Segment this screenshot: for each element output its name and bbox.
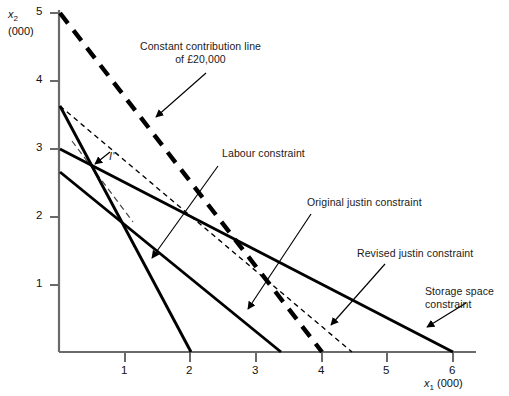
y-tick-1: 1 (36, 277, 42, 289)
annotation-contribution-line1: Constant contribution line (140, 40, 261, 52)
y-tick-5: 5 (36, 5, 42, 17)
series-original-justin (60, 106, 352, 352)
optimum-point-label: I' (109, 150, 114, 163)
annotation-storage: Storage space constraint (425, 285, 494, 311)
annotation-revised-justin: Revised justin constraint (357, 247, 473, 260)
x-tick-4: 4 (318, 364, 324, 376)
x-tick-6: 6 (449, 364, 455, 376)
annotation-labour-line1: Labour constraint (222, 147, 305, 159)
leader-labour (152, 166, 218, 258)
x-axis-sub: 1 (430, 383, 434, 392)
y-axis-label: x2 (000) (8, 8, 34, 38)
leader-contribution (156, 73, 206, 117)
y-axis-sub: 2 (14, 14, 18, 23)
annotation-original-justin: Original justin constraint (307, 196, 422, 209)
y-axis-unit: (000) (8, 25, 34, 37)
annotation-contribution: Constant contribution line of £20,000 (113, 40, 288, 66)
y-ticks (50, 13, 59, 285)
y-tick-4: 4 (36, 73, 42, 85)
annotation-labour: Labour constraint (222, 147, 305, 160)
x-tick-2: 2 (186, 364, 192, 376)
annotation-contribution-line2: of £20,000 (175, 53, 226, 65)
y-tick-3: 3 (36, 141, 42, 153)
y-tick-2: 2 (36, 209, 42, 221)
annotation-revised-justin-line1: Revised justin constraint (357, 247, 473, 259)
x-tick-5: 5 (383, 364, 389, 376)
x-axis-label: x1 (000) (424, 377, 463, 394)
x-tick-1: 1 (121, 364, 127, 376)
leader-optimum (95, 152, 110, 164)
x-ticks (125, 352, 453, 362)
annotation-storage-line2: constraint (425, 298, 472, 310)
annotation-storage-line1: Storage space (425, 285, 494, 297)
x-tick-3: 3 (252, 364, 258, 376)
annotation-original-justin-line1: Original justin constraint (307, 196, 422, 208)
series-labour-constraint (60, 106, 191, 352)
figure-canvas: 5 4 3 2 1 1 2 3 4 5 6 x2 (000) x1 (000) … (0, 0, 509, 396)
x-axis-unit: (000) (437, 377, 463, 389)
